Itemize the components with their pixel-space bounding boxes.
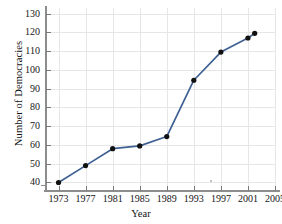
data-point <box>191 78 196 83</box>
data-point <box>218 49 223 54</box>
data-point <box>137 143 142 148</box>
data-point <box>110 146 115 151</box>
data-point <box>245 35 250 40</box>
data-point <box>252 31 257 36</box>
line-chart: Number of Democracies 405060708090100110… <box>0 0 282 224</box>
series-line <box>59 33 255 182</box>
x-axis-title: Year <box>0 208 282 219</box>
data-series <box>0 0 282 224</box>
data-point <box>83 163 88 168</box>
data-point <box>56 180 61 185</box>
data-point <box>164 134 169 139</box>
